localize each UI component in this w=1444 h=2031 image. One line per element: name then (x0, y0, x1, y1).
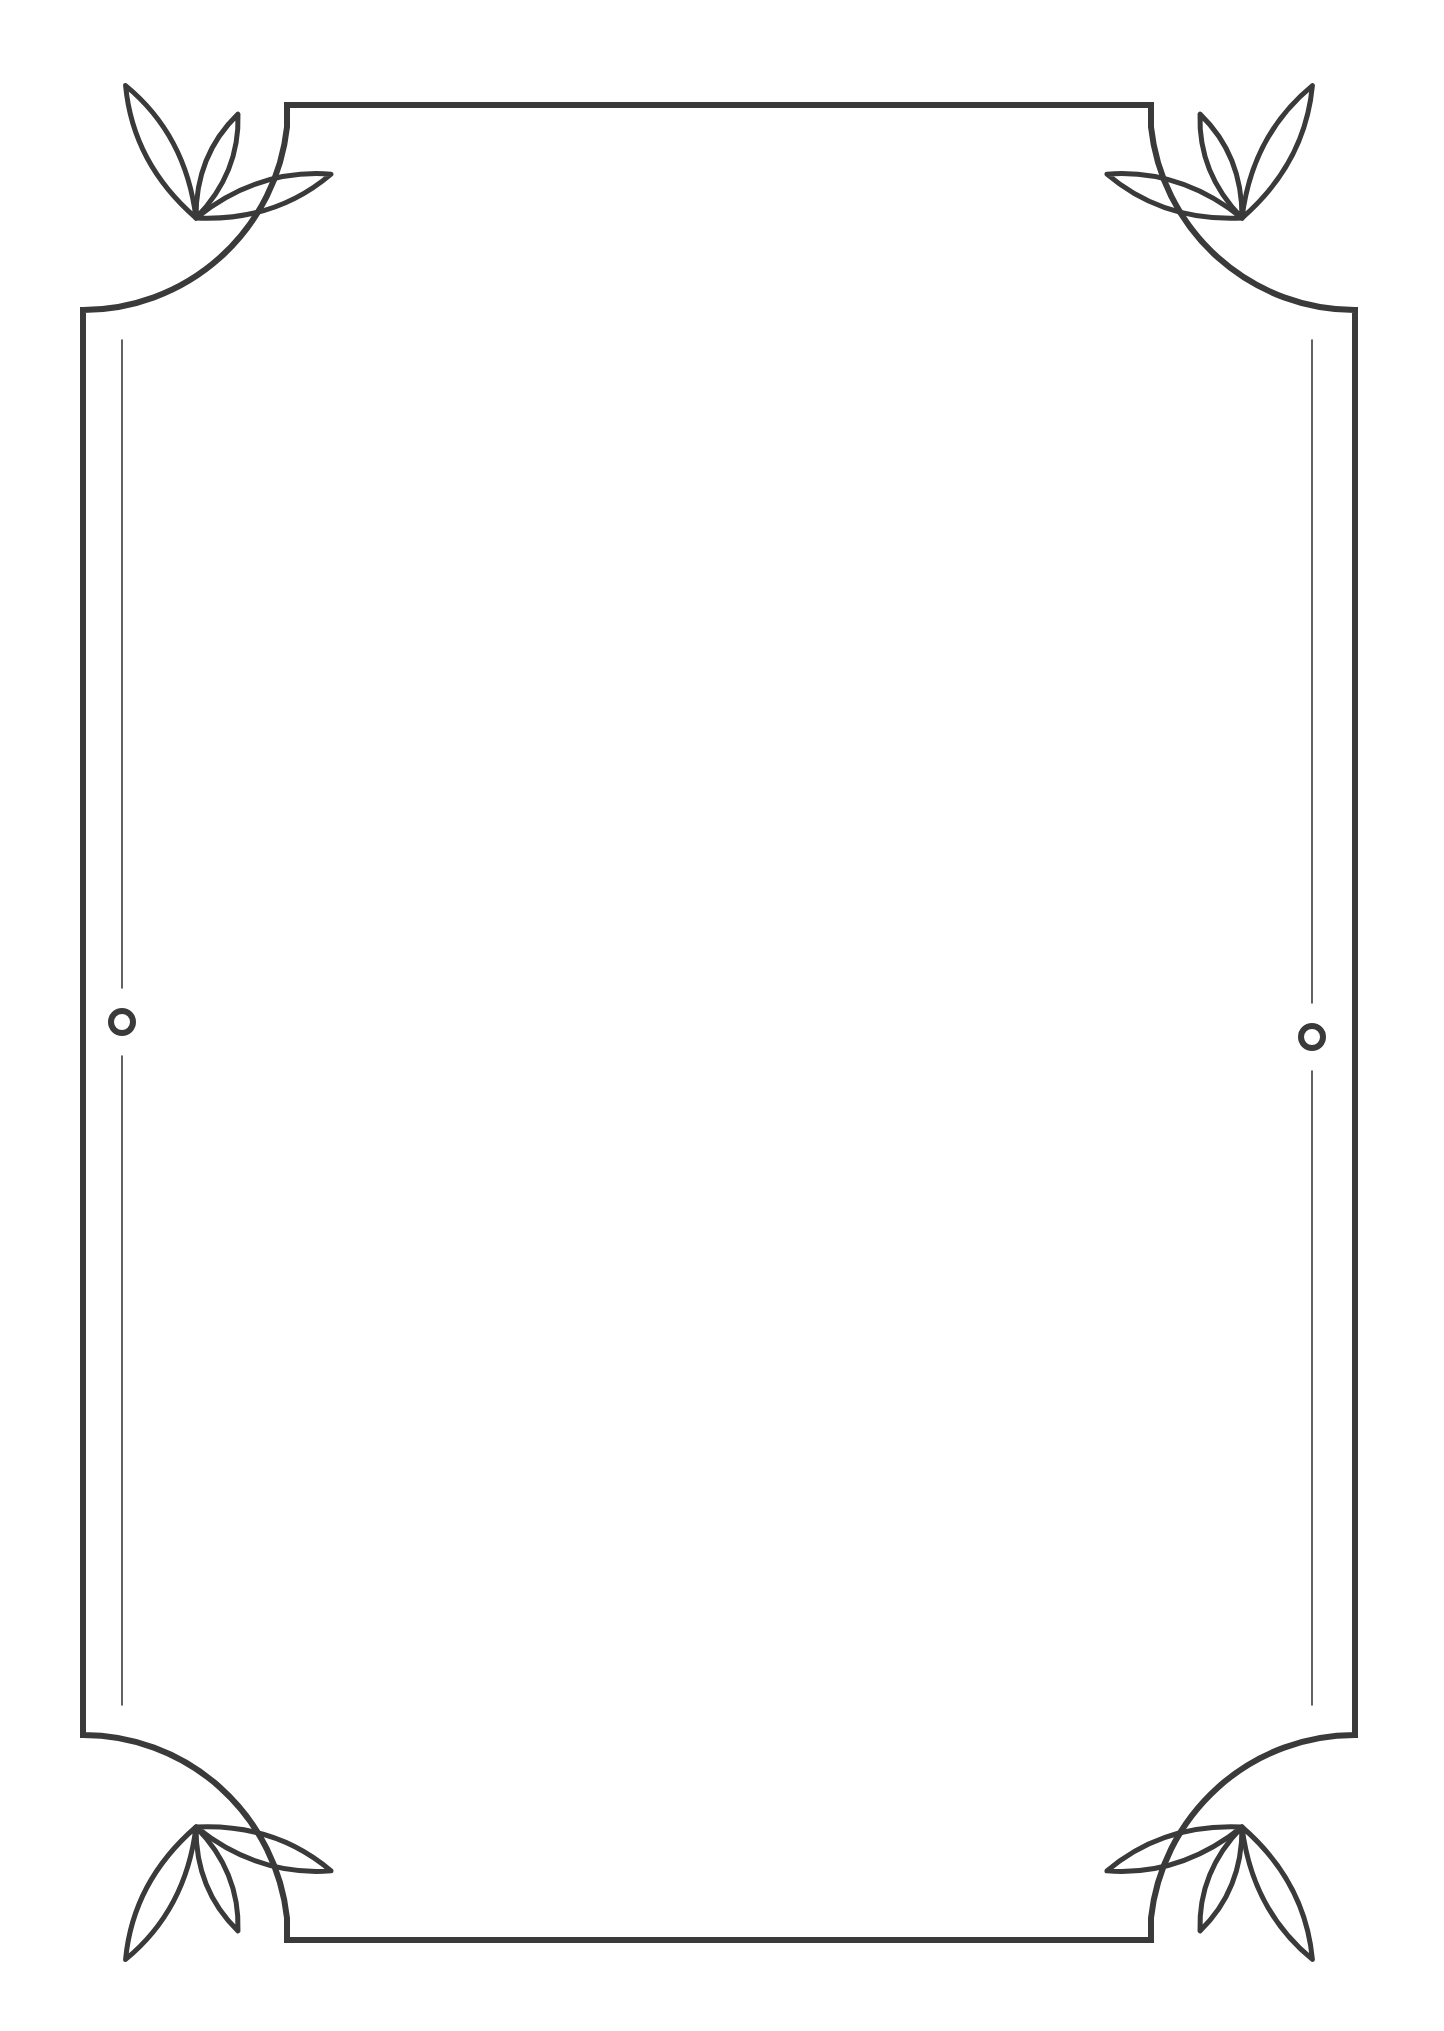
content-area[interactable] (130, 150, 1310, 1895)
page-canvas: Decorative Leaf Corner Frame (0, 0, 1444, 2031)
